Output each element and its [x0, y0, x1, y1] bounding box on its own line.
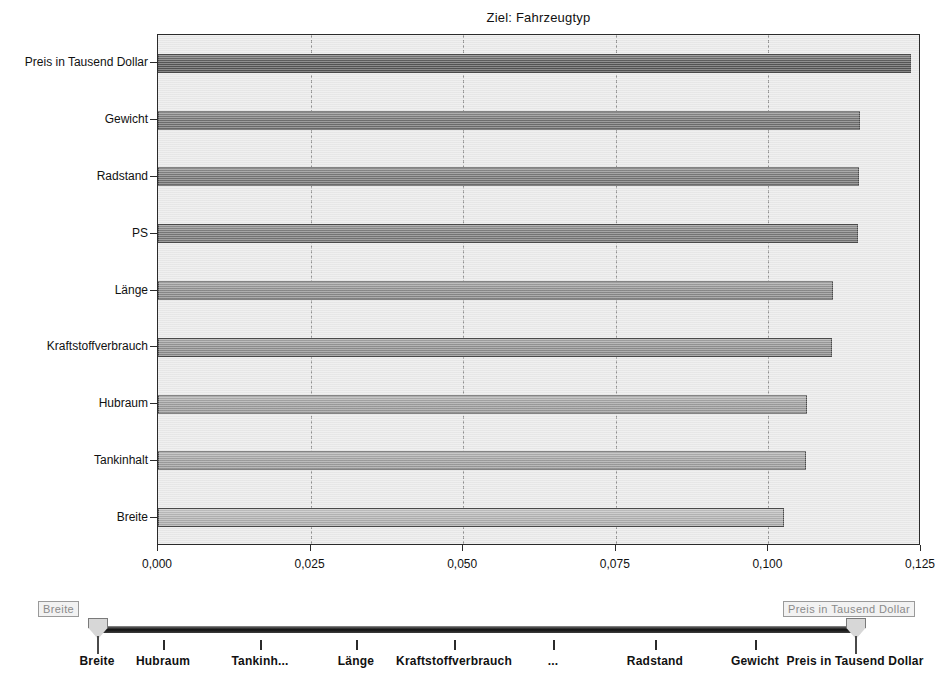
- slider-thumb-right-stem: [855, 636, 857, 654]
- x-axis-tick: [767, 545, 768, 551]
- bar-row: [158, 338, 919, 357]
- bar-row: [158, 508, 919, 527]
- bar[interactable]: [158, 224, 858, 243]
- bar[interactable]: [158, 111, 860, 130]
- bar[interactable]: [158, 54, 911, 73]
- slider-tick: [553, 640, 555, 650]
- slider-tick-label: Länge: [338, 654, 374, 668]
- slider-tick: [454, 640, 456, 650]
- range-slider-panel[interactable]: Breite Preis in Tausend Dollar BreiteHub…: [0, 596, 951, 684]
- slider-tick-label: Kraftstoffverbrauch: [396, 654, 512, 668]
- x-axis-tick: [462, 545, 463, 551]
- bar-row: [158, 224, 919, 243]
- y-axis-label: Preis in Tausend Dollar: [25, 56, 148, 68]
- bar-row: [158, 281, 919, 300]
- y-axis-tick: [150, 290, 157, 291]
- slider-track[interactable]: [97, 626, 855, 633]
- bar-row: [158, 111, 919, 130]
- y-axis-tick: [150, 119, 157, 120]
- bar-row: [158, 167, 919, 186]
- slider-tick-label: ...: [548, 654, 559, 668]
- slider-thumb-left-stem: [97, 636, 99, 654]
- y-axis-label: Hubraum: [99, 397, 148, 409]
- x-axis-tick-label: 0,050: [447, 557, 477, 571]
- x-axis-tick: [615, 545, 616, 551]
- y-axis-label: PS: [132, 227, 148, 239]
- chart-title: Ziel: Fahrzeugtyp: [157, 10, 920, 25]
- y-axis-label: Länge: [115, 284, 148, 296]
- bar[interactable]: [158, 281, 833, 300]
- bar-row: [158, 451, 919, 470]
- bar[interactable]: [158, 167, 859, 186]
- y-axis-tick: [150, 233, 157, 234]
- slider-left-tooltip: Breite: [38, 601, 79, 617]
- bar[interactable]: [158, 395, 807, 414]
- x-axis-tick-label: 0,075: [600, 557, 630, 571]
- x-axis-tick-label: 0,125: [905, 557, 935, 571]
- x-axis-tick: [310, 545, 311, 551]
- bar[interactable]: [158, 508, 784, 527]
- bar-row: [158, 54, 919, 73]
- slider-tick-label: Tankinh...: [231, 654, 288, 668]
- y-axis-label: Kraftstoffverbrauch: [47, 340, 148, 352]
- y-axis-tick: [150, 176, 157, 177]
- x-axis-tick: [157, 545, 158, 551]
- bar[interactable]: [158, 451, 806, 470]
- x-axis-tick: [920, 545, 921, 551]
- x-axis-tick-label: 0,000: [142, 557, 172, 571]
- slider-tick-label: Radstand: [627, 654, 683, 668]
- slider-tick-label: Breite: [79, 654, 114, 668]
- y-axis-label: Breite: [117, 511, 148, 523]
- y-axis-label: Tankinhalt: [94, 454, 148, 466]
- y-axis-tick: [150, 460, 157, 461]
- y-axis-tick: [150, 517, 157, 518]
- y-axis-label: Gewicht: [105, 113, 148, 125]
- slider-tick-label: Gewicht: [731, 654, 779, 668]
- y-axis-tick: [150, 403, 157, 404]
- slider-right-tooltip: Preis in Tausend Dollar: [783, 601, 915, 617]
- bar-row: [158, 395, 919, 414]
- slider-tick: [755, 640, 757, 650]
- y-axis-tick: [150, 62, 157, 63]
- y-axis-label: Radstand: [97, 170, 148, 182]
- slider-tick: [356, 640, 358, 650]
- slider-tick-label: Hubraum: [136, 654, 190, 668]
- bar[interactable]: [158, 338, 832, 357]
- plot-area: [157, 34, 920, 545]
- x-axis-tick-label: 0,025: [295, 557, 325, 571]
- slider-tick-label: Preis in Tausend Dollar: [786, 654, 923, 668]
- x-axis-tick-label: 0,100: [752, 557, 782, 571]
- y-axis-tick: [150, 346, 157, 347]
- slider-tick: [655, 640, 657, 650]
- slider-tick: [260, 640, 262, 650]
- slider-tick: [163, 640, 165, 650]
